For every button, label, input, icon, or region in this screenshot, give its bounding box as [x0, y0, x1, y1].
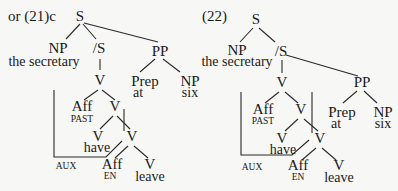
node-aff-past: Aff	[253, 101, 274, 117]
node-v-low: V	[315, 130, 326, 146]
word-the-secretary: the secretary	[201, 54, 272, 69]
node-v-top: V	[277, 74, 288, 90]
node-v-mid: V	[296, 101, 307, 117]
word-six: six	[375, 116, 391, 131]
node-s: S	[252, 11, 260, 27]
sub-en: EN	[104, 171, 117, 181]
edge-s-np	[240, 28, 253, 42]
edge-pp-prep	[140, 59, 155, 72]
edge-pp-np	[364, 91, 377, 103]
word-six: six	[182, 85, 198, 100]
word-have: have	[84, 140, 110, 155]
tree-22: (22) S NP the secretary /S V PP Prep at …	[201, 8, 392, 185]
node-v-mid: V	[110, 98, 121, 114]
node-v-low: V	[127, 128, 138, 144]
word-at: at	[331, 116, 341, 131]
node-aff-en: Aff	[102, 156, 123, 172]
edge-s-sbar	[259, 28, 275, 42]
node-aff-past: Aff	[72, 98, 93, 114]
sub-en: EN	[292, 172, 305, 182]
node-sbar: /S	[275, 43, 288, 59]
edge-s-sbar	[83, 24, 96, 39]
sub-past: PAST	[71, 114, 94, 124]
sub-past: PAST	[252, 116, 275, 126]
word-the-secretary: the secretary	[8, 54, 79, 69]
aux-label: AUX	[56, 161, 77, 171]
edge-pp-np	[163, 59, 180, 72]
edge-sbar-pp	[286, 55, 358, 76]
node-s: S	[76, 8, 84, 24]
aux-label: AUX	[242, 162, 263, 172]
node-sbar: /S	[93, 40, 106, 56]
example-label-22: (22)	[202, 8, 227, 25]
syntax-tree-figure: or (21)c S NP the secretary /S PP V Prep…	[0, 0, 398, 191]
example-label-21c: or (21)c	[8, 8, 56, 25]
word-leave: leave	[324, 170, 354, 185]
node-aff-en: Aff	[288, 157, 309, 173]
word-leave: leave	[135, 169, 165, 184]
edge-s-np	[66, 24, 80, 39]
node-pp: PP	[354, 74, 371, 90]
edge-pp-prep	[343, 91, 357, 103]
node-v-top: V	[95, 72, 106, 88]
word-have: have	[270, 142, 296, 157]
node-pp: PP	[152, 43, 169, 59]
word-at: at	[133, 85, 143, 100]
tree-21c: or (21)c S NP the secretary /S PP V Prep…	[8, 8, 200, 184]
